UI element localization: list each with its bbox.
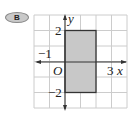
x-tick-label-3: 3 <box>107 63 114 78</box>
y-axis-label: y <box>66 11 74 26</box>
y-tick-label-neg2: −2 <box>48 85 62 100</box>
coordinate-graph: y x 3 −1 2 −2 O <box>0 0 134 117</box>
origin-label: O <box>53 63 63 78</box>
y-tick-label-2: 2 <box>55 23 62 38</box>
x-tick-label-neg1: −1 <box>38 46 52 61</box>
x-axis-label: x <box>116 63 123 78</box>
